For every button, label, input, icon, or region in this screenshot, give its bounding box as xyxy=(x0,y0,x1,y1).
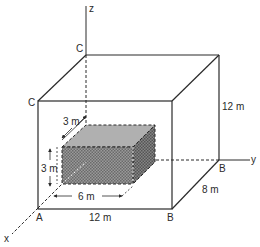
z-axis-label: z xyxy=(89,3,94,14)
outer-height-label: 12 m xyxy=(222,101,244,112)
inner-length-label: 6 m xyxy=(78,191,95,202)
y-axis-label: y xyxy=(251,154,256,165)
vertex-c-back: C xyxy=(76,43,83,54)
vertex-a: A xyxy=(36,212,43,223)
vertex-b-front: B xyxy=(167,212,174,223)
outer-depth-label: 8 m xyxy=(202,184,219,195)
diagram-canvas: z y x 3 m 3 m 6 m xyxy=(0,0,260,247)
outer-width-label: 12 m xyxy=(89,212,111,223)
inner-dimension-length: 6 m xyxy=(54,186,133,202)
vertex-b-back: B xyxy=(219,163,226,174)
vertex-c-front: C xyxy=(28,97,35,108)
inner-box xyxy=(62,125,155,184)
x-axis: x xyxy=(4,208,38,244)
inner-depth-label: 3 m xyxy=(63,116,80,127)
x-axis-label: x xyxy=(4,233,9,244)
inner-height-label: 3 m xyxy=(41,163,58,174)
inner-box-front-face xyxy=(62,147,133,184)
z-axis: z xyxy=(86,3,94,55)
inner-dimension-height: 3 m xyxy=(41,147,58,186)
